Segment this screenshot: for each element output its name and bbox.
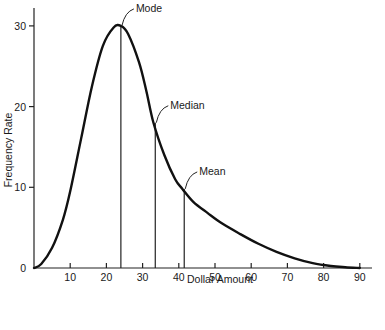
statistic-markers [121, 26, 184, 268]
y-tick-label: 0 [20, 262, 26, 274]
y-tick-label: 10 [14, 181, 26, 193]
x-axis: 102030405060708090 Dollar Amount [34, 263, 372, 285]
y-tick-label: 20 [14, 101, 26, 113]
x-tick-label: 70 [282, 271, 294, 283]
annotations: ModeMedianMean [122, 2, 226, 189]
x-axis-label: Dollar Amount [187, 273, 253, 285]
x-tick-label: 30 [137, 271, 149, 283]
y-axis-label: Frequency Rate [2, 112, 14, 187]
annotation-median: Median [170, 99, 205, 111]
x-tick-label: 10 [64, 271, 76, 283]
x-tick-label: 40 [173, 271, 185, 283]
skewed-distribution-chart: 0102030 Frequency Rate 10203040506070809… [0, 0, 385, 330]
annotation-mode: Mode [136, 2, 162, 14]
x-tick-label: 90 [354, 271, 366, 283]
y-tick-label: 30 [14, 20, 26, 32]
y-axis: 0102030 Frequency Rate [2, 8, 34, 274]
distribution-curve [34, 25, 360, 268]
x-tick-label: 80 [318, 271, 330, 283]
annotation-mean: Mean [199, 165, 225, 177]
x-tick-label: 20 [101, 271, 113, 283]
